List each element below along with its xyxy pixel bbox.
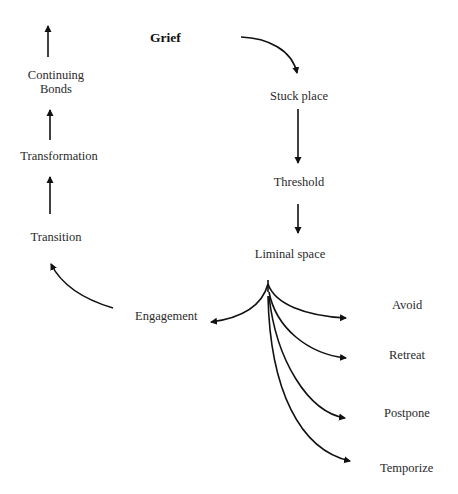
node-liminal-space: Liminal space xyxy=(255,247,325,261)
arrow-grief-to-stuck-place xyxy=(241,37,297,73)
arrow-liminal-to-avoid xyxy=(268,284,346,318)
node-continuing-bonds-line1: Continuing xyxy=(28,68,84,82)
node-retreat: Retreat xyxy=(389,348,425,362)
node-engagement: Engagement xyxy=(135,309,197,323)
node-avoid: Avoid xyxy=(392,298,422,312)
node-threshold: Threshold xyxy=(274,175,325,189)
node-transition: Transition xyxy=(31,230,82,244)
node-continuing-bonds: Continuing Bonds xyxy=(28,68,84,96)
arrow-liminal-to-engagement xyxy=(211,284,268,322)
node-stuck-place: Stuck place xyxy=(270,89,328,103)
node-transformation: Transformation xyxy=(20,149,97,163)
arrow-liminal-to-postpone xyxy=(269,296,345,418)
node-continuing-bonds-line2: Bonds xyxy=(28,82,84,96)
arrow-engagement-to-transition xyxy=(51,264,113,308)
node-grief: Grief xyxy=(150,31,181,45)
node-postpone: Postpone xyxy=(384,406,430,420)
node-temporize: Temporize xyxy=(380,461,433,475)
